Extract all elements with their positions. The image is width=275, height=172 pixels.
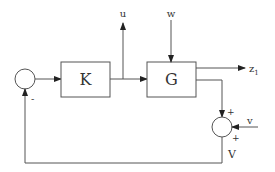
controller-label: K (80, 70, 93, 89)
sum-bottom-sign: + (232, 133, 240, 143)
feedback-sign: - (31, 93, 34, 104)
arrow-measured-output-to-sum (196, 80, 222, 117)
sum-top-sign: + (227, 107, 235, 117)
noise-label: v (246, 115, 253, 126)
feedback-summing-junction (15, 69, 35, 89)
block-diagram: K u G w z1 + v + V - (0, 0, 275, 172)
noise-summing-junction (212, 117, 232, 137)
plant-label: G (165, 70, 178, 89)
output-label: z1 (249, 63, 259, 77)
measurement-label: V (227, 148, 237, 161)
control-signal-label: u (120, 8, 127, 19)
arrow-feedback-path (25, 89, 222, 163)
disturbance-label: w (167, 8, 176, 19)
